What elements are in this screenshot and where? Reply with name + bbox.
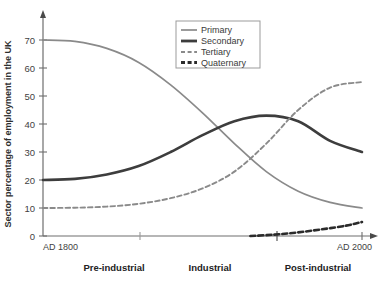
y-tick-label-40: 40 (24, 119, 35, 130)
y-tick-label-0: 0 (30, 231, 35, 242)
x-axis (43, 233, 378, 239)
y-tick-label-60: 60 (24, 63, 35, 74)
y-tick-label-30: 30 (24, 147, 35, 158)
series-line-quaternary (250, 222, 362, 236)
employment-sectors-line-chart: Sector percentage of employment in the U… (0, 0, 386, 286)
chart-figure: Sector percentage of employment in the U… (0, 0, 386, 286)
y-tick-label-20: 20 (24, 175, 35, 186)
region-label-industrial: Industrial (189, 262, 232, 273)
region-label-post-industrial: Post-industrial (285, 262, 352, 273)
x-axis-start-label: AD 1800 (43, 242, 78, 252)
y-tick-label-70: 70 (24, 35, 35, 46)
y-tick-label-10: 10 (24, 203, 35, 214)
legend-label-secondary: Secondary (201, 36, 245, 46)
chart-legend: Primary Secondary Tertiary Quaternary (176, 21, 260, 68)
x-axis-end-label: AD 2000 (337, 242, 372, 252)
legend-label-primary: Primary (201, 25, 232, 35)
legend-label-quaternary: Quaternary (201, 58, 247, 68)
series-line-tertiary (43, 82, 362, 208)
region-label-pre-industrial: Pre-industrial (83, 262, 144, 273)
y-tick-label-50: 50 (24, 91, 35, 102)
y-axis (40, 10, 46, 236)
series-line-secondary (43, 116, 362, 180)
legend-label-tertiary: Tertiary (201, 47, 231, 57)
y-axis-title: Sector percentage of employment in the U… (3, 40, 13, 228)
series-paths (43, 40, 362, 236)
